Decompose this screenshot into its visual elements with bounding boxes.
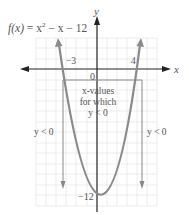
- left-region-label: y < 0: [34, 127, 54, 137]
- function-equation: f(x) = x2 − x − 12: [8, 21, 87, 35]
- y-axis-arrow-icon: [94, 16, 100, 25]
- y-axis-label: y: [93, 5, 99, 17]
- curve-right-arrow-icon: [137, 38, 145, 47]
- annotation-line-3: y < 0: [88, 108, 108, 118]
- right-region-label: y < 0: [147, 127, 167, 137]
- tick-label-neg3: −3: [66, 56, 76, 66]
- x-axis-left-arrow-icon: [20, 66, 29, 72]
- x-axis: [20, 66, 171, 72]
- x-axis-right-arrow-icon: [162, 66, 171, 72]
- annotation-line-1: x-values: [82, 86, 114, 96]
- tick-label-4: 4: [131, 56, 136, 66]
- bracket-center-dot: [96, 79, 99, 82]
- x-axis-label: x: [173, 63, 179, 75]
- tick-label-neg12: −12: [78, 191, 94, 202]
- annotation-line-2: for which: [80, 97, 117, 107]
- parabola-chart: f(x) = x2 − x − 12 y x −3 0 4 −12 x-valu…: [0, 0, 189, 215]
- parabola-curve: [59, 45, 140, 195]
- tick-label-0: 0: [90, 71, 95, 82]
